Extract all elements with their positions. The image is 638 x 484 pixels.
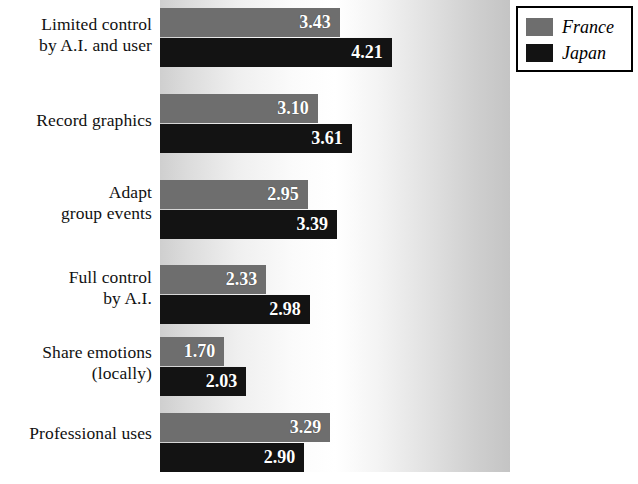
bar-value-label: 3.61	[311, 128, 352, 149]
category-label-line1: Adapt	[109, 182, 152, 202]
bar-value-label: 1.70	[184, 341, 225, 362]
legend: France Japan	[516, 6, 633, 72]
category-label-line1: Professional uses	[29, 423, 152, 443]
category-label-line1: Share emotions	[42, 342, 152, 362]
bar-france-adapt-group-events: 2.95	[160, 180, 308, 209]
category-label-line1: Full control	[69, 267, 152, 287]
bar-value-label: 3.29	[290, 417, 331, 438]
category-label-limited-control: Limited control by A.I. and user	[0, 14, 152, 56]
bar-japan-share-emotions: 2.03	[160, 367, 246, 396]
bar-value-label: 3.39	[297, 214, 338, 235]
bar-value-label: 3.43	[299, 12, 340, 33]
bar-value-label: 3.10	[277, 98, 318, 119]
bar-value-label: 2.95	[267, 184, 308, 205]
category-label-line1: Limited control	[41, 14, 152, 34]
bar-value-label: 4.21	[351, 42, 392, 63]
bar-chart: Limited control by A.I. and user Record …	[0, 0, 638, 484]
bar-value-label: 2.03	[206, 371, 247, 392]
legend-swatch-france-icon	[526, 18, 553, 36]
bar-japan-full-control: 2.98	[160, 295, 310, 324]
bar-value-label: 2.90	[264, 447, 305, 468]
category-label-line2: (locally)	[0, 363, 152, 384]
category-label-line2: by A.I. and user	[0, 35, 152, 56]
bar-japan-record-graphics: 3.61	[160, 124, 352, 153]
legend-item-france: France	[526, 14, 631, 40]
bar-france-limited-control: 3.43	[160, 8, 340, 37]
bar-value-label: 2.98	[269, 299, 310, 320]
bar-japan-professional-uses: 2.90	[160, 443, 304, 472]
bar-japan-adapt-group-events: 3.39	[160, 210, 337, 239]
category-axis-labels: Limited control by A.I. and user Record …	[0, 0, 152, 472]
legend-swatch-japan-icon	[526, 44, 553, 62]
category-label-line2: by A.I.	[0, 288, 152, 309]
category-label-full-control: Full control by A.I.	[0, 267, 152, 309]
category-label-professional-uses: Professional uses	[0, 423, 152, 444]
category-label-share-emotions: Share emotions (locally)	[0, 342, 152, 384]
legend-item-japan: Japan	[526, 40, 631, 66]
category-label-adapt-group-events: Adapt group events	[0, 182, 152, 224]
bar-france-share-emotions: 1.70	[160, 337, 224, 366]
category-label-line2: group events	[0, 203, 152, 224]
legend-label-japan: Japan	[553, 43, 606, 64]
bar-france-record-graphics: 3.10	[160, 94, 318, 123]
bar-france-full-control: 2.33	[160, 265, 266, 294]
category-label-line1: Record graphics	[36, 110, 152, 130]
bar-france-professional-uses: 3.29	[160, 413, 330, 442]
bar-japan-limited-control: 4.21	[160, 38, 392, 67]
bar-value-label: 2.33	[226, 269, 267, 290]
legend-label-france: France	[553, 17, 614, 38]
category-label-record-graphics: Record graphics	[0, 110, 152, 131]
